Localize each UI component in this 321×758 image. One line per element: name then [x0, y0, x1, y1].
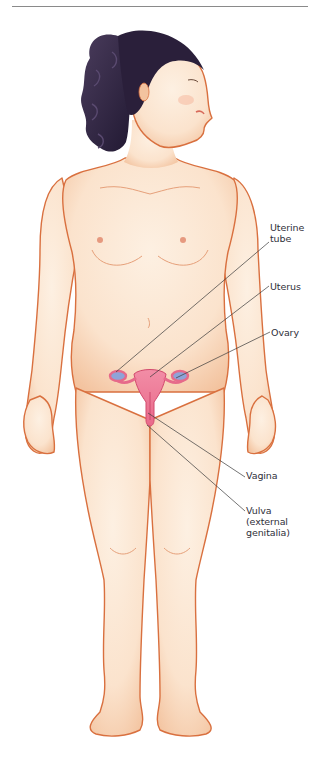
right-leg — [150, 388, 224, 736]
anatomy-figure-page: Uterine tube Uterus Ovary Vagina Vulva (… — [0, 0, 321, 758]
label-uterus: Uterus — [270, 281, 301, 292]
female-body-illustration — [0, 0, 321, 758]
label-uterine-tube: Uterine tube — [270, 222, 304, 244]
ear — [139, 83, 149, 101]
label-vagina: Vagina — [246, 470, 278, 481]
cheek-blush — [178, 95, 194, 105]
left-nipple — [97, 237, 103, 243]
label-ovary: Ovary — [271, 327, 299, 338]
torso — [63, 158, 238, 392]
right-nipple — [180, 237, 186, 243]
label-vulva: Vulva (external genitalia) — [246, 505, 290, 538]
left-ovary — [110, 371, 126, 381]
left-leg — [76, 388, 150, 736]
